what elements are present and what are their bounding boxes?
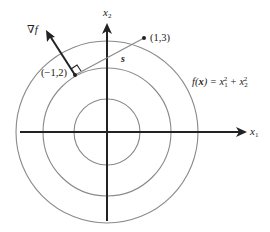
gradient-label: ∇f — [27, 24, 38, 35]
contour-diagram: x2 x1 ∇f (−1,2) (1,3) s f(x) = x12 + x22 — [0, 0, 270, 232]
x1-axis-label: x1 — [250, 126, 258, 139]
x2-axis-label: x2 — [103, 7, 111, 20]
point-neg1-2-label: (−1,2) — [41, 68, 67, 79]
point-neg1-2 — [73, 73, 77, 77]
x2-sub: 2 — [108, 12, 112, 20]
function-label: f(x) = x12 + x22 — [192, 76, 247, 89]
fn-plus: + x — [227, 76, 244, 87]
point-1-3-label: (1,3) — [150, 33, 170, 44]
direction-label: s — [121, 54, 125, 64]
diagram-canvas — [0, 0, 270, 232]
fn-mid: ) = x — [204, 76, 225, 87]
fn-sup2: 2 — [244, 75, 248, 83]
point-1-3 — [142, 36, 146, 40]
x1-sub: 1 — [255, 131, 259, 139]
